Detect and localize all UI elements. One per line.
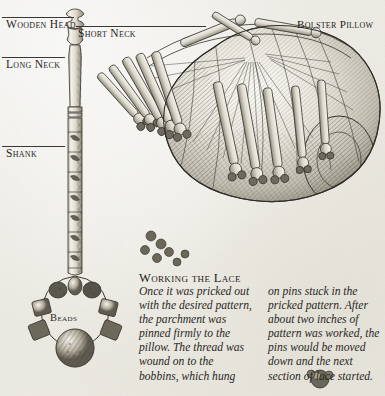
label-beads: Beads [50, 312, 77, 325]
article-heading: Working the Lace [139, 271, 254, 285]
article-column-left: Working the Lace Once it was pricked out… [139, 271, 254, 384]
article-paragraph-right: on pins stuck in the pricked pattern. Af… [268, 285, 383, 384]
label-bolster-pillow: Bolster Pillow [297, 18, 373, 31]
article-paragraph-left: Once it was pricked out with the desired… [139, 285, 254, 384]
label-wooden-head: Wooden Head [6, 18, 76, 31]
label-short-neck: Short Neck [78, 27, 136, 40]
label-wooden-head-text: Wooden Head [6, 18, 76, 30]
label-shank: Shank [6, 147, 37, 160]
label-long-neck: Long Neck [6, 58, 60, 71]
lace-bobbin-illustration-page: Wooden Head Short Neck Long Neck Shank B… [0, 0, 385, 396]
article-column-right: on pins stuck in the pricked pattern. Af… [268, 271, 383, 384]
bolster-pillow-illustration [95, 0, 385, 275]
article-text-block: Working the Lace Once it was pricked out… [139, 271, 383, 384]
